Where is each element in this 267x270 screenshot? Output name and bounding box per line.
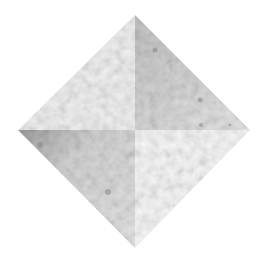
quadrant-top-right	[135, 15, 250, 130]
diamond-figure	[0, 0, 267, 270]
quadrant-top-left	[18, 15, 135, 130]
quadrant-bottom-right	[135, 130, 250, 248]
quadrant-bottom-left	[18, 130, 135, 248]
